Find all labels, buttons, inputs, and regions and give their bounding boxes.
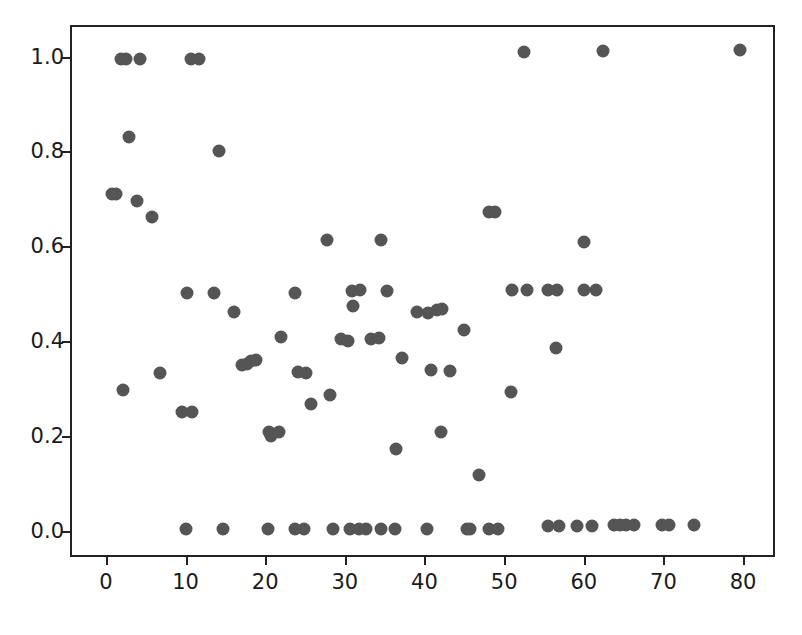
data-point — [289, 286, 302, 299]
data-point — [109, 187, 122, 200]
data-point — [389, 522, 402, 535]
data-point — [274, 330, 287, 343]
data-point — [120, 52, 133, 65]
data-point — [261, 523, 274, 536]
data-point — [207, 287, 220, 300]
data-point — [628, 519, 641, 532]
x-tick-mark — [743, 557, 745, 565]
data-point — [596, 45, 609, 58]
data-point — [245, 355, 258, 368]
data-point — [473, 469, 486, 482]
data-point — [552, 519, 565, 532]
data-point — [375, 522, 388, 535]
data-point — [520, 283, 533, 296]
x-tick-mark — [584, 557, 586, 565]
data-point — [434, 426, 447, 439]
data-point — [122, 130, 135, 143]
x-tick-mark — [265, 557, 267, 565]
data-point — [395, 352, 408, 365]
data-point — [380, 284, 393, 297]
data-point — [186, 405, 199, 418]
data-point — [425, 364, 438, 377]
data-point — [130, 194, 143, 207]
data-point — [436, 303, 449, 316]
data-point — [733, 44, 746, 57]
data-point — [300, 367, 313, 380]
data-point — [688, 518, 701, 531]
x-tick-label: 30 — [331, 572, 358, 593]
y-tick-label: 0.6 — [31, 236, 64, 257]
data-point — [505, 283, 518, 296]
plot-area — [70, 25, 775, 557]
x-tick-mark — [424, 557, 426, 565]
data-point — [359, 522, 372, 535]
data-point — [179, 523, 192, 536]
y-tick-label: 1.0 — [31, 46, 64, 67]
data-point — [578, 236, 591, 249]
data-point — [145, 210, 158, 223]
data-point — [444, 364, 457, 377]
y-tick-label: 0.4 — [31, 331, 64, 352]
data-point — [492, 522, 505, 535]
data-point — [297, 522, 310, 535]
data-point — [662, 518, 675, 531]
data-point — [212, 145, 225, 158]
data-point — [180, 287, 193, 300]
data-point — [590, 283, 603, 296]
x-tick-label: 0 — [99, 572, 112, 593]
data-point — [320, 233, 333, 246]
x-tick-mark — [106, 557, 108, 565]
x-tick-label: 10 — [172, 572, 199, 593]
data-point — [390, 442, 403, 455]
x-tick-label: 50 — [491, 572, 518, 593]
x-tick-label: 20 — [252, 572, 279, 593]
data-point — [421, 522, 434, 535]
x-tick-mark — [186, 557, 188, 565]
x-tick-mark — [663, 557, 665, 565]
x-tick-label: 70 — [650, 572, 677, 593]
data-point — [551, 283, 564, 296]
data-point — [347, 300, 360, 313]
data-point — [571, 519, 584, 532]
data-point — [154, 367, 167, 380]
data-point — [372, 332, 385, 345]
data-point — [586, 519, 599, 532]
data-point — [504, 385, 517, 398]
y-tick-label: 0.2 — [31, 426, 64, 447]
x-tick-label: 60 — [570, 572, 597, 593]
data-point — [457, 324, 470, 337]
x-tick-mark — [504, 557, 506, 565]
data-point — [216, 523, 229, 536]
data-points-layer — [72, 27, 773, 555]
data-point — [116, 383, 129, 396]
data-point — [342, 334, 355, 347]
data-point — [192, 52, 205, 65]
data-point — [324, 389, 337, 402]
y-tick-label: 0.8 — [31, 141, 64, 162]
y-tick-label: 0.0 — [31, 520, 64, 541]
x-tick-mark — [345, 557, 347, 565]
data-point — [549, 341, 562, 354]
data-point — [273, 425, 286, 438]
data-point — [133, 52, 146, 65]
data-point — [304, 398, 317, 411]
x-tick-label: 80 — [730, 572, 757, 593]
data-point — [227, 306, 240, 319]
data-point — [354, 284, 367, 297]
data-point — [375, 233, 388, 246]
data-point — [327, 522, 340, 535]
data-point — [489, 205, 502, 218]
scatter-plot-figure: 0.00.20.40.60.81.0 01020304050607080 — [0, 0, 802, 635]
data-point — [464, 522, 477, 535]
x-tick-label: 40 — [411, 572, 438, 593]
data-point — [518, 46, 531, 59]
